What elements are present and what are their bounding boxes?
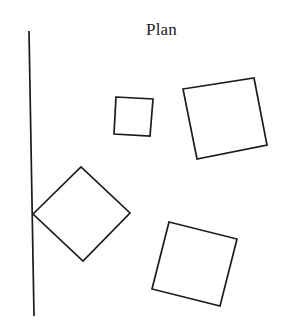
small-square	[114, 97, 153, 136]
diamond	[33, 167, 130, 261]
bottom-square	[152, 222, 237, 306]
wall-line	[29, 31, 34, 316]
large-square	[183, 78, 267, 159]
plan-diagram: Plan	[0, 0, 285, 334]
plan-canvas	[0, 0, 285, 334]
